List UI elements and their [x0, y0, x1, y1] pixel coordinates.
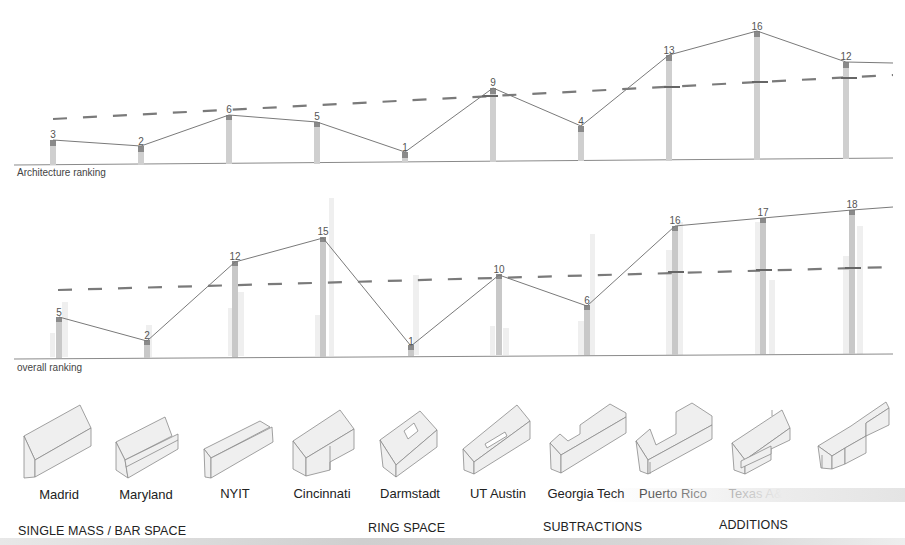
architecture-value-labels: 3 2 6 5 1 9 4 13 16 12 — [50, 21, 852, 153]
overall-ranking-label: overall ranking — [17, 362, 82, 373]
overall-value-labels: 5 2 12 15 1 10 6 16 17 18 — [56, 199, 858, 347]
stepped-addition-icon — [818, 402, 889, 469]
building-name-maryland: Maryland — [96, 487, 196, 502]
box-slot-courtyard-icon — [463, 405, 530, 474]
section-label-additions: ADDITIONS — [719, 518, 788, 532]
value-label: 6 — [584, 295, 590, 306]
value-label: 2 — [144, 330, 150, 341]
gable-bar-icon — [24, 405, 91, 478]
footer-shade — [0, 538, 905, 545]
building-name-madrid: Madrid — [9, 487, 109, 502]
long-gable-bar-icon — [204, 421, 273, 478]
overall-line — [59, 207, 893, 346]
value-label: 16 — [751, 21, 763, 32]
value-label: 4 — [578, 116, 584, 127]
gable-bar-ledge-icon — [116, 417, 178, 478]
architecture-ranking-label: Architecture ranking — [17, 167, 106, 178]
section-label-ring-space: RING SPACE — [368, 521, 445, 535]
section-label-single-mass: SINGLE MASS / BAR SPACE — [18, 524, 186, 538]
architecture-baseline — [14, 158, 893, 165]
building-name-ut-austin: UT Austin — [448, 486, 548, 501]
value-label: 3 — [50, 129, 56, 140]
ranking-charts-canvas: 3 2 6 5 1 9 4 13 16 12 — [0, 0, 905, 545]
value-label: 15 — [317, 226, 329, 237]
value-label: 18 — [846, 199, 858, 210]
value-label: 2 — [138, 136, 144, 147]
value-label: 10 — [493, 264, 505, 275]
bar-with-addition-icon — [732, 410, 790, 474]
box-courtyard-icon — [380, 411, 437, 477]
architecture-line — [53, 31, 893, 152]
value-label: 1 — [402, 142, 408, 153]
value-label: 17 — [757, 207, 769, 218]
overall-bars — [56, 210, 855, 358]
value-label: 12 — [229, 251, 241, 262]
value-label: 5 — [56, 307, 62, 318]
value-label: 13 — [663, 45, 675, 56]
value-label: 16 — [669, 215, 681, 226]
value-label: 9 — [490, 77, 496, 88]
u-bar-icon — [636, 403, 712, 474]
decorative-shade — [600, 488, 905, 502]
value-label: 6 — [226, 104, 232, 115]
value-label: 12 — [840, 51, 852, 62]
overall-ghost-bars — [50, 198, 863, 357]
building-name-nyit: NYIT — [185, 486, 285, 501]
notched-bar-icon — [550, 404, 626, 473]
value-label: 5 — [314, 111, 320, 122]
stepped-box-icon — [293, 410, 354, 476]
building-name-cincinnati: Cincinnati — [272, 486, 372, 501]
value-label: 1 — [408, 336, 414, 347]
building-name-darmstadt: Darmstadt — [360, 486, 460, 501]
section-label-subtractions: SUBTRACTIONS — [543, 520, 642, 534]
